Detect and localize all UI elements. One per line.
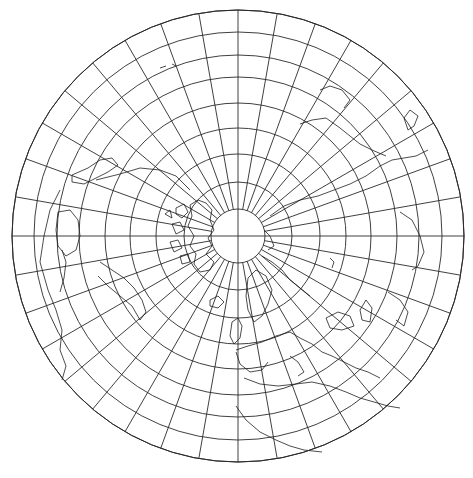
meridian-250: [161, 24, 229, 211]
meridian-200: [26, 159, 213, 227]
coast-west-africa: [236, 406, 322, 452]
meridian-100: [199, 263, 234, 459]
coast-north-america: [40, 168, 190, 380]
coast-kamchatka: [320, 86, 350, 108]
coast-siberia: [270, 150, 428, 216]
meridian-280: [243, 13, 278, 209]
meridian-110: [161, 261, 229, 448]
polar-map: [0, 0, 473, 478]
coast-italy: [290, 356, 304, 376]
coast-east-na: [98, 262, 146, 320]
coast-baikal: [330, 258, 334, 268]
coast-india: [400, 212, 424, 270]
coast-aleutians: [160, 64, 176, 68]
coast-scandinavia: [246, 270, 272, 322]
coast-alaska: [72, 158, 118, 184]
meridian-340: [263, 159, 450, 227]
meridian-170: [15, 241, 211, 276]
meridian-260: [199, 13, 234, 209]
coast-iceland: [210, 296, 224, 308]
meridian-290: [247, 24, 315, 211]
coast-hudson-bay: [56, 210, 80, 256]
coast-baja: [60, 250, 66, 292]
coastlines: [40, 64, 428, 452]
coast-uk: [230, 318, 242, 344]
map-canvas: [0, 0, 473, 478]
meridian-80: [243, 263, 278, 459]
coast-east-asia: [300, 118, 386, 156]
meridian-70: [247, 261, 315, 448]
meridian-10: [265, 241, 461, 276]
coast-caspian: [360, 300, 372, 322]
